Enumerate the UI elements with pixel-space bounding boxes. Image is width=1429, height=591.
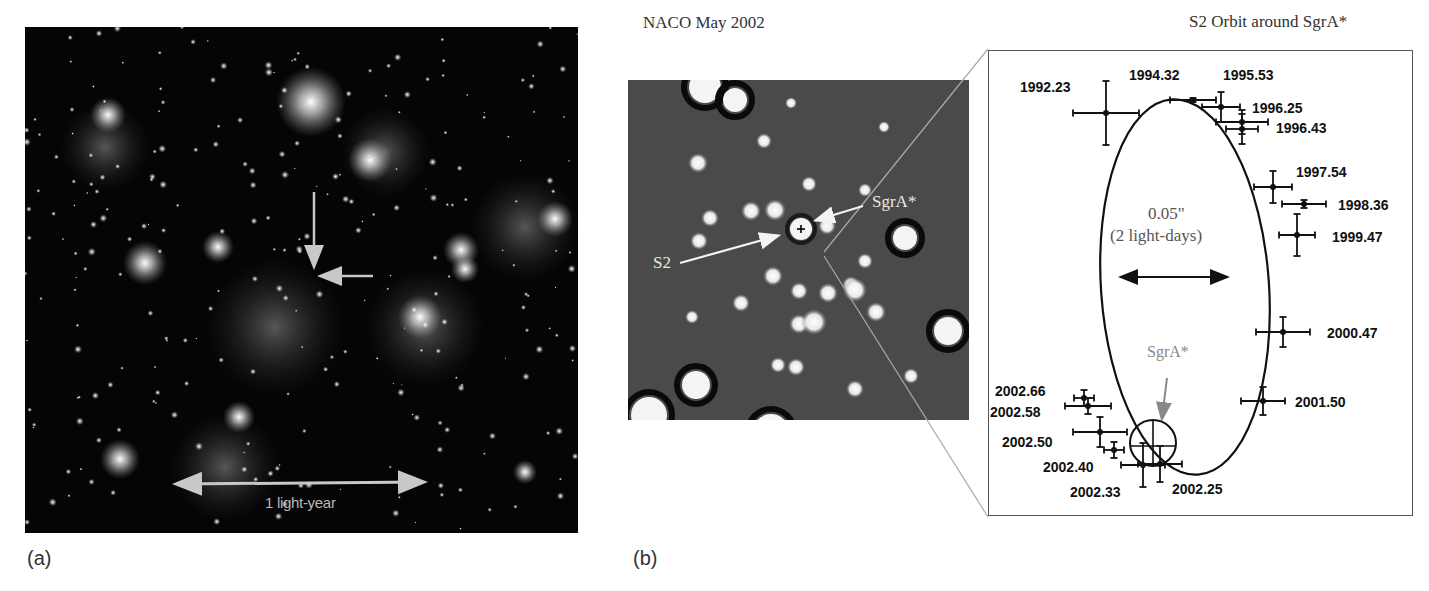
orbit-epoch-label: 2000.47 bbox=[1327, 325, 1378, 341]
orbit-epoch-label: 2002.66 bbox=[995, 383, 1046, 399]
orbit-data-point: 1992.23 bbox=[1020, 79, 1139, 145]
orbit-data-point: 1999.47 bbox=[1279, 214, 1383, 256]
orbit-epoch-label: 1995.53 bbox=[1223, 67, 1274, 83]
orbit-point-marker bbox=[1081, 395, 1087, 401]
orbit-epoch-label: 2002.58 bbox=[990, 404, 1041, 420]
orbit-data-point: 2002.50 bbox=[1002, 417, 1127, 450]
orbit-epoch-label: 1999.47 bbox=[1332, 229, 1383, 245]
orbit-data-point: 1998.36 bbox=[1282, 197, 1389, 213]
orbit-ellipse bbox=[1088, 94, 1282, 481]
orbit-epoch-label: 2002.50 bbox=[1002, 434, 1053, 450]
orbit-point-marker bbox=[1140, 462, 1146, 468]
sgra-pointer-arrow-orbit bbox=[1162, 378, 1167, 418]
orbit-epoch-label: 1996.25 bbox=[1252, 100, 1303, 116]
orbit-point-marker bbox=[1301, 201, 1307, 207]
orbit-chart: 1992.231994.321995.531996.251996.431997.… bbox=[0, 0, 1429, 591]
orbit-point-marker bbox=[1190, 97, 1196, 103]
orbit-epoch-label: 2002.33 bbox=[1070, 484, 1121, 500]
orbit-data-point: 1996.43 bbox=[1226, 114, 1327, 144]
orbit-point-marker bbox=[1218, 104, 1224, 110]
orbit-data-point: 1997.54 bbox=[1254, 164, 1347, 203]
orbit-point-marker bbox=[1111, 447, 1117, 453]
scale-text-lightdays: (2 light-days) bbox=[1110, 226, 1202, 246]
orbit-epoch-label: 1994.32 bbox=[1129, 67, 1180, 83]
orbit-data-point: 2002.66 bbox=[995, 383, 1094, 406]
orbit-epoch-label: 2002.40 bbox=[1043, 459, 1094, 475]
orbit-point-marker bbox=[1103, 110, 1109, 116]
orbit-data-point: 2002.40 bbox=[1043, 442, 1124, 475]
orbit-point-marker bbox=[1270, 184, 1276, 190]
orbit-point-marker bbox=[1280, 329, 1286, 335]
orbit-point-marker bbox=[1239, 126, 1245, 132]
orbit-epoch-label: 1998.36 bbox=[1338, 197, 1389, 213]
orbit-point-marker bbox=[1097, 429, 1103, 435]
orbit-data-point: 2002.58 bbox=[990, 398, 1111, 420]
orbit-data-point: 1994.32 bbox=[1129, 67, 1216, 104]
orbit-epoch-label: 1996.43 bbox=[1276, 120, 1327, 136]
orbit-epoch-label: 2001.50 bbox=[1295, 394, 1346, 410]
orbit-epoch-label: 2002.25 bbox=[1172, 481, 1223, 497]
orbit-epoch-label: 1997.54 bbox=[1296, 164, 1347, 180]
orbit-point-marker bbox=[1260, 398, 1266, 404]
sgra-orbit-label: SgrA* bbox=[1147, 343, 1189, 361]
orbit-epoch-label: 1992.23 bbox=[1020, 79, 1071, 95]
orbit-data-point: 2000.47 bbox=[1256, 317, 1378, 347]
orbit-point-marker bbox=[1157, 461, 1163, 467]
scale-text-arcsec: 0.05" bbox=[1148, 204, 1185, 224]
orbit-point-marker bbox=[1294, 232, 1300, 238]
orbit-data-point: 2001.50 bbox=[1241, 387, 1346, 415]
